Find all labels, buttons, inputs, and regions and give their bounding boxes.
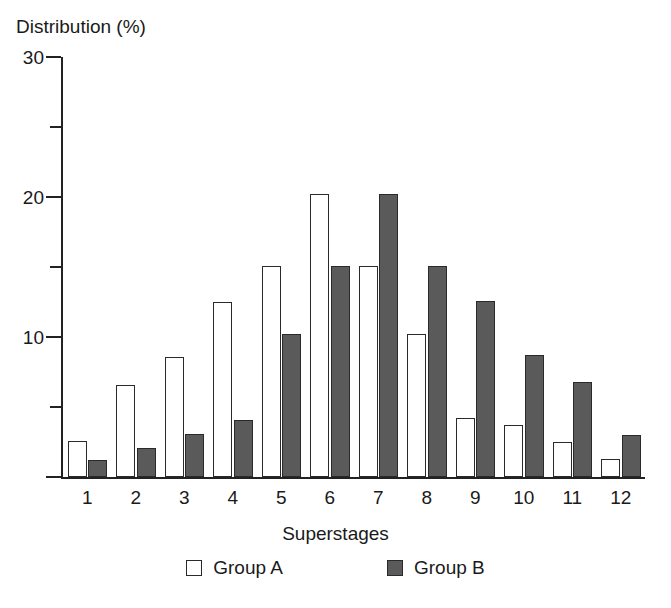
bar-group-4 bbox=[209, 57, 258, 477]
bar-group-b-5 bbox=[282, 334, 301, 477]
x-tick-label-8: 8 bbox=[403, 486, 452, 510]
x-tick-label-2: 2 bbox=[112, 486, 161, 510]
bar-group-b-9 bbox=[476, 301, 495, 477]
x-tick-label-1: 1 bbox=[63, 486, 112, 510]
y-axis-title: Distribution (%) bbox=[16, 16, 146, 38]
bar-group-a-8 bbox=[407, 334, 426, 477]
x-tick-label-5: 5 bbox=[257, 486, 306, 510]
bar-group-b-6 bbox=[331, 266, 350, 477]
bar-group-a-1 bbox=[68, 441, 87, 477]
bar-group-a-7 bbox=[359, 266, 378, 477]
bar-group-12 bbox=[597, 57, 646, 477]
bars-layer bbox=[63, 57, 645, 477]
x-tick-label-3: 3 bbox=[160, 486, 209, 510]
filled-square-icon bbox=[387, 560, 403, 576]
open-square-icon bbox=[186, 560, 202, 576]
bar-group-b-12 bbox=[622, 435, 641, 477]
x-tick-label-10: 10 bbox=[500, 486, 549, 510]
y-tick-label-20: 20 bbox=[0, 188, 44, 207]
chart-legend: Group A Group B bbox=[0, 558, 671, 577]
bar-group-a-11 bbox=[553, 442, 572, 477]
y-tick-label-text: 20 bbox=[2, 188, 44, 207]
y-tick-label-text: 30 bbox=[2, 48, 44, 67]
legend-label-group-b: Group B bbox=[414, 558, 485, 577]
bar-group-1 bbox=[63, 57, 112, 477]
y-tick-major-20 bbox=[46, 196, 61, 198]
legend-item-group-a: Group A bbox=[186, 558, 283, 577]
x-tick-label-11: 11 bbox=[548, 486, 597, 510]
bar-group-a-6 bbox=[310, 194, 329, 477]
bar-group-a-10 bbox=[504, 425, 523, 477]
y-tick-label-30: 30 bbox=[0, 48, 44, 67]
bar-group-a-4 bbox=[213, 302, 232, 477]
bar-group-6 bbox=[306, 57, 355, 477]
y-tick-major-0 bbox=[46, 476, 61, 478]
bar-group-b-4 bbox=[234, 420, 253, 477]
y-tick-label-text: 10 bbox=[2, 328, 44, 347]
bar-group-5 bbox=[257, 57, 306, 477]
x-tick-label-6: 6 bbox=[306, 486, 355, 510]
x-axis-tick-labels: 123456789101112 bbox=[63, 486, 645, 512]
bar-group-b-3 bbox=[185, 434, 204, 477]
bar-group-7 bbox=[354, 57, 403, 477]
bar-group-a-12 bbox=[601, 459, 620, 477]
x-axis-line bbox=[61, 477, 645, 479]
y-tick-minor-25 bbox=[50, 126, 61, 128]
bar-chart: Distribution (%) 102030 123456789101112 … bbox=[0, 0, 671, 608]
bar-group-b-11 bbox=[573, 382, 592, 477]
x-tick-label-12: 12 bbox=[597, 486, 646, 510]
bar-group-a-5 bbox=[262, 266, 281, 477]
x-axis-title: Superstages bbox=[0, 523, 671, 545]
y-tick-major-10 bbox=[46, 336, 61, 338]
legend-label-group-a: Group A bbox=[213, 558, 283, 577]
bar-group-a-2 bbox=[116, 385, 135, 477]
y-tick-label-10: 10 bbox=[0, 328, 44, 347]
bar-group-10 bbox=[500, 57, 549, 477]
bar-group-a-3 bbox=[165, 357, 184, 477]
bar-group-b-7 bbox=[379, 194, 398, 477]
legend-item-group-b: Group B bbox=[387, 558, 485, 577]
bar-group-2 bbox=[112, 57, 161, 477]
y-tick-minor-5 bbox=[50, 406, 61, 408]
bar-group-b-2 bbox=[137, 448, 156, 477]
bar-group-11 bbox=[548, 57, 597, 477]
bar-group-a-9 bbox=[456, 418, 475, 477]
x-tick-label-4: 4 bbox=[209, 486, 258, 510]
bar-group-b-1 bbox=[88, 460, 107, 477]
bar-group-b-8 bbox=[428, 266, 447, 477]
bar-group-9 bbox=[451, 57, 500, 477]
y-tick-major-30 bbox=[46, 56, 61, 58]
bar-group-3 bbox=[160, 57, 209, 477]
x-tick-label-9: 9 bbox=[451, 486, 500, 510]
y-tick-minor-15 bbox=[50, 266, 61, 268]
bar-group-b-10 bbox=[525, 355, 544, 477]
bar-group-8 bbox=[403, 57, 452, 477]
x-tick-label-7: 7 bbox=[354, 486, 403, 510]
